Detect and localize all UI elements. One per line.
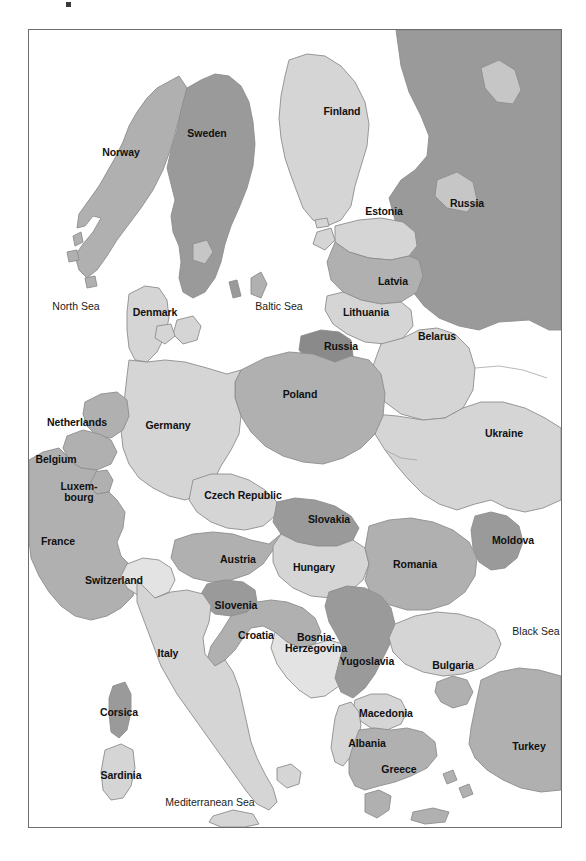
norway-coast-island-c: [85, 276, 97, 288]
map-geometry: .c { stroke:#8d8d8d; stroke-width:0.9; s…: [29, 30, 561, 827]
page-artifact-mark: [66, 2, 71, 7]
map-frame: .c { stroke:#8d8d8d; stroke-width:0.9; s…: [28, 29, 562, 828]
europe-political-map-figure: .c { stroke:#8d8d8d; stroke-width:0.9; s…: [0, 0, 586, 861]
island-hiiumaa: [315, 218, 329, 228]
norway-coast-island-b: [67, 250, 79, 262]
